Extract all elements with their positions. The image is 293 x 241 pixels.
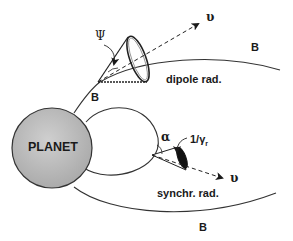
gamma-subscript: r [205, 140, 208, 147]
inner-field-loop [84, 108, 158, 175]
dipole-radiation-label: dipole rad. [166, 74, 222, 85]
synchrotron-radiation-label: synchr. rad. [157, 188, 219, 199]
diagram-canvas: PLANET B B B Ψ υ dipole rad. α 1/γr υ sy… [0, 0, 293, 241]
diagram-graphics [0, 0, 293, 241]
planet-label: PLANET [28, 141, 78, 154]
field-label-bottom: B [199, 222, 207, 233]
alpha-symbol: α [161, 131, 170, 143]
synchrotron-velocity-symbol: υ [230, 172, 238, 184]
gamma-cone-label: 1/γr [190, 134, 208, 147]
field-label-upper-left: B [91, 92, 99, 103]
synchrotron-cone [152, 138, 222, 178]
gamma-cone-symbol: 1/γ [190, 133, 205, 145]
upper-field-line [74, 60, 280, 113]
dipole-velocity-symbol: υ [206, 11, 214, 23]
field-label-upper-right: B [251, 42, 259, 53]
psi-symbol: Ψ [95, 30, 106, 42]
